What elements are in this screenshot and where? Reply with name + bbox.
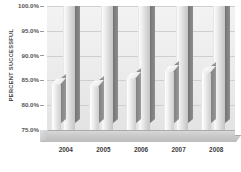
bar-front-2005[interactable]: [89, 87, 98, 130]
bar-group-2008: [197, 6, 235, 130]
bar-front-2008[interactable]: [201, 73, 210, 130]
bar-face: [51, 85, 61, 130]
plot-area: [47, 6, 235, 130]
x-axis-tick-labels: 20042005200620072008: [47, 146, 235, 158]
bar-face: [89, 87, 99, 130]
x-axis-label-2007: 2007: [160, 146, 198, 153]
bar-group-2007: [160, 6, 198, 130]
bar-front-2006[interactable]: [126, 79, 135, 130]
bar-front-2007[interactable]: [164, 72, 173, 130]
y-axis-tick-label: 75.0%: [21, 126, 39, 133]
x-axis-label-2006: 2006: [122, 146, 160, 153]
y-axis-tick-mark: [40, 80, 44, 81]
y-axis-tick-label: 80.0%: [21, 101, 39, 108]
bar-front-2004[interactable]: [51, 85, 60, 130]
y-axis-tick-1: 95.0%: [21, 27, 44, 34]
y-axis-tick-mark: [40, 105, 44, 106]
floor-platform: [47, 130, 235, 142]
y-axis-tick-mark: [40, 55, 44, 56]
y-axis-tick-label: 90.0%: [21, 52, 39, 59]
y-axis-tick-label: 100.0%: [18, 2, 39, 9]
y-axis-tick-mark: [40, 6, 44, 7]
bar-chart: PERCENT SUCCESSFUL 100.0%95.0%90.0%85.0%…: [0, 0, 241, 172]
x-axis-label-2008: 2008: [197, 146, 235, 153]
floor-left-cap: [40, 130, 48, 141]
bar-face: [126, 79, 136, 130]
x-axis-label-2004: 2004: [47, 146, 85, 153]
y-axis-tick-0: 100.0%: [18, 2, 44, 9]
y-axis-tick-mark: [40, 31, 44, 32]
y-axis-tick-label: 95.0%: [21, 27, 39, 34]
bar-group-2006: [122, 6, 160, 130]
y-axis-tick-3: 85.0%: [21, 76, 44, 83]
bar-group-2004: [47, 6, 85, 130]
bar-face: [164, 72, 174, 130]
x-axis-label-2005: 2005: [85, 146, 123, 153]
bar-group-2005: [85, 6, 123, 130]
y-axis-tick-labels: 100.0%95.0%90.0%85.0%80.0%75.0%: [12, 0, 46, 140]
y-axis-tick-label: 85.0%: [21, 76, 39, 83]
y-axis-tick-2: 90.0%: [21, 52, 44, 59]
y-axis-tick-4: 80.0%: [21, 101, 44, 108]
bar-face: [201, 73, 211, 130]
